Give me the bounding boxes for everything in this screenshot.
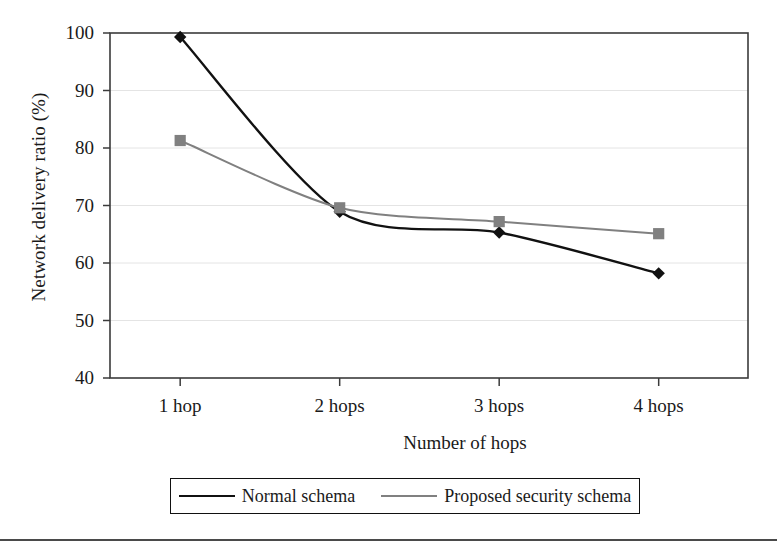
x-tick-label: 4 hops xyxy=(599,396,719,415)
legend-entry-normal-schema: Normal schema xyxy=(179,486,355,507)
y-axis-title: Network delivery ratio (%) xyxy=(22,2,56,392)
legend-label-proposed-security-schema: Proposed security schema xyxy=(444,486,631,507)
legend-swatch-proposed-security-schema xyxy=(381,488,437,504)
x-tick-label: 3 hops xyxy=(439,396,559,415)
series-normal-schema xyxy=(174,31,665,280)
chart-figure: 405060708090100 1 hop2 hops3 hops4 hops … xyxy=(0,0,777,550)
legend-swatch-normal-schema xyxy=(179,488,235,504)
series-proposed-security-schema xyxy=(175,135,665,239)
legend-label-normal-schema: Normal schema xyxy=(242,486,355,507)
x-tick-label: 2 hops xyxy=(280,396,400,415)
page-separator-rule xyxy=(0,539,777,541)
legend-entry-proposed-security-schema: Proposed security schema xyxy=(381,486,631,507)
x-tick-label: 1 hop xyxy=(120,396,240,415)
chart-legend: Normal schema Proposed security schema xyxy=(170,478,640,514)
x-axis-title: Number of hops xyxy=(180,432,750,454)
